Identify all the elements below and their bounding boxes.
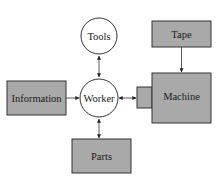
worker-system-diagram: Tools Worker Information Parts Tape Mach… bbox=[0, 0, 221, 184]
tools-node: Tools bbox=[81, 18, 117, 54]
worker-label: Worker bbox=[83, 93, 115, 104]
parts-node: Parts bbox=[72, 139, 131, 173]
machine-port bbox=[137, 87, 152, 108]
information-node: Information bbox=[7, 81, 66, 115]
tape-label: Tape bbox=[171, 29, 192, 40]
machine-node: Machine bbox=[137, 73, 211, 123]
information-label: Information bbox=[11, 93, 62, 104]
tape-node: Tape bbox=[152, 21, 211, 47]
tools-label: Tools bbox=[87, 31, 110, 42]
machine-label: Machine bbox=[163, 91, 200, 102]
worker-node: Worker bbox=[80, 79, 118, 117]
parts-label: Parts bbox=[91, 151, 112, 162]
